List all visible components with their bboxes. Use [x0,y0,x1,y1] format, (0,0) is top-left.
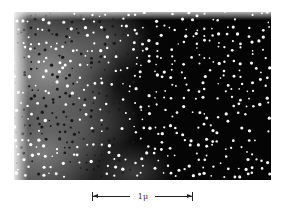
micrograph-image [14,12,271,180]
particle-dots [14,12,271,180]
scale-bar-label: 1μ [136,190,150,203]
scale-bar-line-left [92,196,130,197]
left-edge-fade [14,12,28,180]
top-edge-fade [14,12,271,20]
scale-bar-right-tick [192,192,193,201]
scale-bar: 1μ [92,190,193,204]
